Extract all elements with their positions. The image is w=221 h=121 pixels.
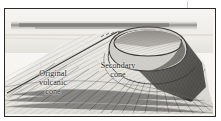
label-line-2: cone bbox=[89, 70, 147, 79]
figure-plate: Original volcanic cone Secondary cone bbox=[5, 9, 215, 116]
label-line-1: Original bbox=[27, 69, 79, 78]
label-line-1: Secondary bbox=[89, 61, 147, 70]
figure-frame: Original volcanic cone Secondary cone bbox=[4, 8, 216, 117]
label-line-2: volcanic bbox=[27, 78, 79, 87]
illustration-stage: Original volcanic cone Secondary cone bbox=[0, 0, 221, 121]
label-original-volcanic-cone: Original volcanic cone bbox=[27, 69, 79, 96]
label-secondary-cone: Secondary cone bbox=[89, 61, 147, 79]
label-line-3: cone bbox=[27, 87, 79, 96]
